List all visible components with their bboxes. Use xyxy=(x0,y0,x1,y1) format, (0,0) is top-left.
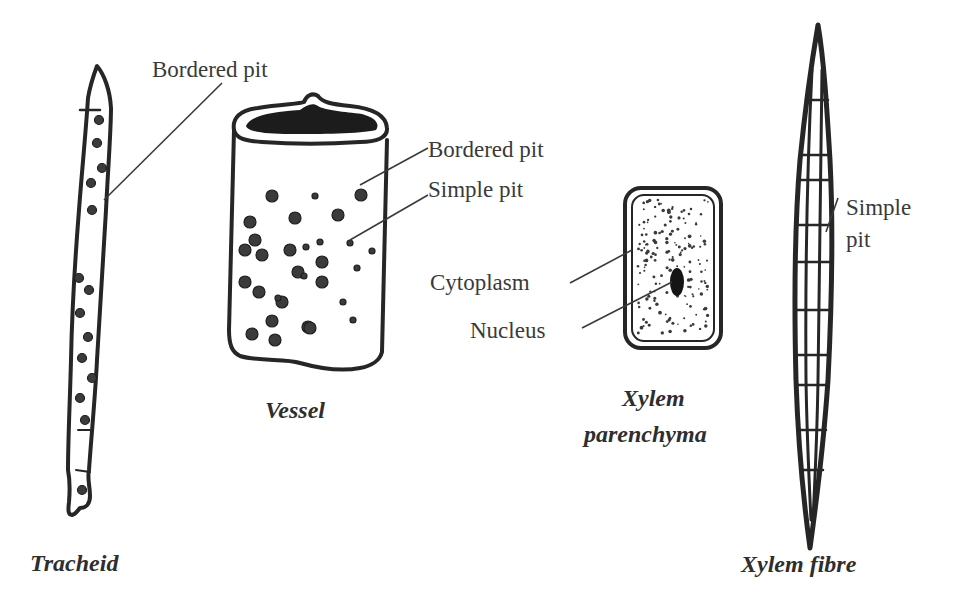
label-tracheid-bordered-pit: Bordered pit xyxy=(152,57,268,82)
cytoplasm-granule xyxy=(669,317,671,319)
parenchyma-cytoplasm-granules xyxy=(637,199,710,335)
cytoplasm-granule xyxy=(654,241,658,245)
cytoplasm-granule xyxy=(644,264,647,267)
cytoplasm-granule xyxy=(665,241,668,244)
cytoplasm-granule xyxy=(687,286,689,288)
cytoplasm-granule xyxy=(665,291,668,294)
label-cytoplasm: Cytoplasm xyxy=(430,270,530,295)
cytoplasm-granule xyxy=(689,305,692,308)
cytoplasm-granule xyxy=(689,278,692,281)
vessel-bordered-pit xyxy=(355,189,367,201)
vessel-simple-pit xyxy=(312,193,318,199)
vessel-bordered-pit xyxy=(246,328,258,340)
bordered-pit xyxy=(88,374,97,383)
cytoplasm-granule xyxy=(692,293,694,295)
cytoplasm-granule xyxy=(677,323,679,325)
cytoplasm-granule xyxy=(704,282,706,284)
vessel-simple-pit xyxy=(369,248,375,254)
cytoplasm-granule xyxy=(638,224,640,226)
cytoplasm-granule xyxy=(690,324,693,327)
cytoplasm-granule xyxy=(700,235,702,237)
cytoplasm-granule xyxy=(647,222,649,224)
cytoplasm-granule xyxy=(646,243,649,246)
cytoplasm-granule xyxy=(645,233,648,236)
cytoplasm-granule xyxy=(700,213,703,216)
cytoplasm-granule xyxy=(688,243,690,245)
cytoplasm-granule xyxy=(643,325,645,327)
vessel-bordered-pit xyxy=(266,315,278,327)
vessel-bordered-pit xyxy=(239,276,251,288)
cytoplasm-granule xyxy=(637,332,640,335)
cytoplasm-granule xyxy=(658,232,661,235)
title-tracheid: Tracheid xyxy=(30,550,119,576)
bordered-pit xyxy=(81,416,90,425)
cytoplasm-granule xyxy=(700,292,704,296)
cytoplasm-granule xyxy=(684,295,686,297)
cytoplasm-granule xyxy=(672,256,674,258)
cytoplasm-granule xyxy=(654,231,658,235)
cytoplasm-granule xyxy=(693,245,695,247)
cytoplasm-granule xyxy=(665,237,668,240)
vessel-bordered-pit xyxy=(332,209,344,221)
cytoplasm-granule xyxy=(689,270,692,273)
cytoplasm-granule xyxy=(653,299,655,301)
vessel-bordered-pit xyxy=(266,190,278,202)
cytoplasm-granule xyxy=(665,314,667,316)
cytoplasm-granule xyxy=(654,259,657,262)
cytoplasm-granule xyxy=(668,269,672,273)
cytoplasm-granule xyxy=(684,222,686,224)
vessel-bordered-pit xyxy=(249,234,261,246)
cytoplasm-granule xyxy=(690,208,692,210)
title-xylem-parenchyma-line1: Xylem xyxy=(621,385,685,411)
cytoplasm-granule xyxy=(642,318,645,321)
cytoplasm-granule xyxy=(648,307,651,310)
cytoplasm-granule xyxy=(643,240,646,243)
cytoplasm-granule xyxy=(653,252,655,254)
cytoplasm-granule xyxy=(639,272,641,274)
cytoplasm-granule xyxy=(664,223,667,226)
vessel-simple-pit xyxy=(303,244,309,250)
cytoplasm-granule xyxy=(688,244,692,248)
cytoplasm-granule xyxy=(703,240,707,244)
vessel-simple-pit xyxy=(350,317,356,323)
cytoplasm-granule xyxy=(683,247,686,250)
cytoplasm-granule xyxy=(654,206,656,208)
cytoplasm-granule xyxy=(683,217,685,219)
cytoplasm-granule xyxy=(643,247,645,249)
label-fibre-simple: Simple xyxy=(846,195,911,220)
vessel-simple-pit xyxy=(354,265,360,271)
label-nucleus: Nucleus xyxy=(470,318,545,343)
cytoplasm-granule xyxy=(668,330,672,334)
cytoplasm-granule xyxy=(681,249,683,251)
cytoplasm-granule xyxy=(661,331,664,334)
cytoplasm-granule xyxy=(703,280,705,282)
cytoplasm-granule xyxy=(669,220,672,223)
bordered-pit xyxy=(88,206,97,215)
bordered-pit xyxy=(98,164,107,173)
bordered-pit xyxy=(78,486,87,495)
cytoplasm-granule xyxy=(666,320,669,323)
bordered-pit xyxy=(85,286,94,295)
cytoplasm-granule xyxy=(659,283,661,285)
cytoplasm-granule xyxy=(641,234,644,237)
cytoplasm-granule xyxy=(688,234,692,238)
cytoplasm-granule xyxy=(674,242,676,244)
cytoplasm-granule xyxy=(695,314,697,316)
cytoplasm-granule xyxy=(671,259,674,262)
cytoplasm-granule xyxy=(698,259,700,261)
cytoplasm-granule xyxy=(680,210,682,212)
bordered-pit xyxy=(76,309,85,318)
cytoplasm-granule xyxy=(637,302,640,305)
vessel-simple-pit xyxy=(347,240,353,246)
tracheid-figure xyxy=(68,66,111,515)
title-xylem-fibre: Xylem fibre xyxy=(740,551,857,577)
vessel-simple-pit xyxy=(317,239,323,245)
title-vessel: Vessel xyxy=(265,397,325,423)
cytoplasm-granule xyxy=(692,323,695,326)
cytoplasm-granule xyxy=(654,215,656,217)
cytoplasm-granule xyxy=(680,251,682,253)
cytoplasm-granule xyxy=(645,297,648,300)
cytoplasm-granule xyxy=(704,243,707,246)
cytoplasm-granule xyxy=(643,228,645,230)
cytoplasm-granule xyxy=(706,289,708,291)
